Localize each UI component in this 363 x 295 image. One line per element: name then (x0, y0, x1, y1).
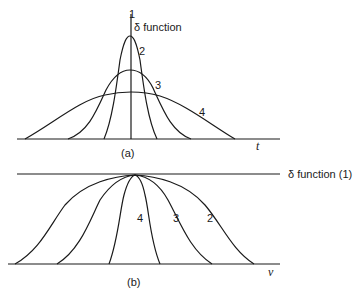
curve-label-2: 2 (207, 212, 213, 224)
panel-a: 1 δ function 2 3 4 t (a) (17, 8, 280, 159)
curve-3 (57, 175, 212, 264)
curve-label-3: 3 (173, 212, 179, 224)
panel-label-b: (b) (127, 276, 140, 288)
panel-b: δ function (1) 4 3 2 ν (b) (8, 168, 352, 288)
curve-label-4: 4 (199, 106, 205, 118)
curve-2 (15, 175, 254, 264)
panel-label-a: (a) (121, 147, 134, 159)
figure: 1 δ function 2 3 4 t (a) δ function (1) … (0, 0, 363, 295)
curve-label-3: 3 (155, 79, 161, 91)
curve-label-2: 2 (139, 45, 145, 57)
curve-4 (109, 175, 160, 264)
axis-label-t: t (256, 139, 260, 153)
axis-label-nu: ν (268, 265, 274, 279)
curve-3 (68, 70, 191, 139)
label-1: 1 (129, 8, 135, 20)
curve-label-4: 4 (137, 212, 143, 224)
delta-function-label: δ function (134, 21, 182, 33)
delta-function-label: δ function (1) (288, 168, 352, 180)
